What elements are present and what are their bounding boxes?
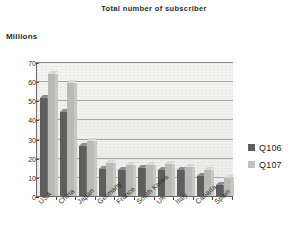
legend-item[interactable]: Q107 — [248, 156, 308, 173]
bar-face — [40, 98, 47, 196]
y-axis-tick-label: 30 — [6, 136, 36, 143]
legend-item[interactable]: Q106 — [248, 139, 308, 156]
bar[interactable] — [79, 146, 86, 196]
bar-face — [185, 167, 192, 196]
legend-item-label: Q107 — [259, 160, 282, 170]
bar-group — [76, 62, 96, 196]
bar[interactable] — [60, 112, 67, 196]
bar-group — [213, 62, 233, 196]
y-axis-tick-mark — [36, 82, 39, 83]
bar-face — [60, 112, 67, 196]
bar-group — [115, 62, 135, 196]
x-axis-labels: USAChinaJapanGermanyFranceSouth KoreaUKI… — [36, 200, 308, 249]
bar-group — [135, 62, 155, 196]
plot-area — [36, 62, 233, 197]
y-axis-tick-mark — [36, 101, 39, 102]
legend-swatch-icon — [248, 161, 255, 168]
y-axis-tick-label: 60 — [6, 79, 36, 86]
y-axis-tick-mark — [36, 159, 39, 160]
y-axis-tick-label: 10 — [6, 174, 36, 181]
legend-swatch-icon — [248, 144, 255, 151]
chart-title: Total number of subscriber — [0, 4, 308, 13]
bar-group — [174, 62, 194, 196]
legend: Q106 Q107 — [248, 139, 308, 173]
bar-group — [37, 62, 57, 196]
bar[interactable] — [185, 167, 192, 196]
y-axis: 010203040506070 — [0, 62, 36, 197]
y-axis-tick-mark — [36, 63, 39, 64]
bar-group — [194, 62, 214, 196]
y-axis-tick-mark — [36, 120, 39, 121]
y-axis-tick-label: 20 — [6, 155, 36, 162]
bar-chart: Total number of subscriber Millions 0102… — [0, 0, 308, 249]
y-axis-tick-mark — [36, 178, 39, 179]
bar-face — [79, 146, 86, 196]
bar-face — [48, 74, 55, 197]
bar-face — [67, 83, 74, 196]
y-axis-unit-label: Millions — [6, 32, 37, 41]
bar-group — [96, 62, 116, 196]
bar-group — [57, 62, 77, 196]
bar[interactable] — [67, 83, 74, 196]
y-axis-tick-label: 0 — [6, 194, 36, 201]
bar-side — [231, 178, 234, 196]
y-axis-tick-label: 40 — [6, 117, 36, 124]
legend-item-label: Q106 — [259, 143, 282, 153]
bar[interactable] — [48, 74, 55, 197]
y-axis-tick-label: 70 — [6, 60, 36, 67]
y-axis-tick-mark — [36, 140, 39, 141]
y-axis-tick-label: 50 — [6, 98, 36, 105]
bar[interactable] — [40, 98, 47, 196]
